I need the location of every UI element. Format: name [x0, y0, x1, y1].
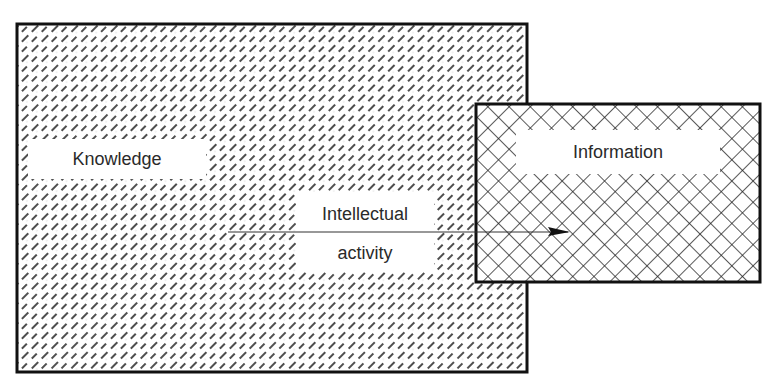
information-label: Information	[516, 130, 720, 174]
knowledge-region	[17, 24, 527, 372]
activity-label: activity	[296, 238, 434, 268]
intellectual-label: Intellectual	[296, 199, 434, 229]
knowledge-label: Knowledge	[28, 139, 206, 179]
diagram-canvas	[0, 0, 775, 389]
